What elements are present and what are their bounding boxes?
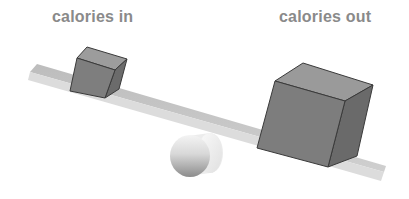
fulcrum-cylinder (170, 133, 223, 177)
seesaw-diagram (0, 0, 409, 199)
calories-out-cube (257, 63, 373, 167)
